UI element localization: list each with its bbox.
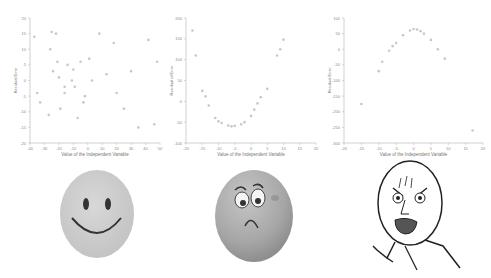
- y-tick-label: 15: [22, 31, 27, 36]
- data-point: [243, 121, 246, 124]
- x-tick-label: -20: [341, 146, 348, 151]
- data-point: [123, 107, 126, 110]
- data-point: [71, 79, 74, 82]
- data-point: [72, 68, 75, 71]
- data-point: [137, 126, 140, 129]
- y-tick-label: -300: [332, 141, 341, 146]
- scatter-plot-1: -20-15-10-505101520-40-30-20-10010203040…: [8, 0, 168, 160]
- data-point: [391, 45, 394, 48]
- data-point: [204, 95, 207, 98]
- data-point: [73, 85, 76, 88]
- data-point: [130, 70, 133, 73]
- x-axis-label: Value of the Independent Variable: [380, 152, 448, 157]
- y-axis-label: Residual of Error: [169, 65, 174, 96]
- data-point: [66, 64, 69, 67]
- x-tick-label: -15: [199, 146, 206, 151]
- data-point: [79, 60, 82, 63]
- data-point: [388, 50, 391, 53]
- y-tick-label: 100: [175, 57, 182, 62]
- y-tick-label: 150: [175, 36, 182, 41]
- x-tick-label: -30: [42, 146, 49, 151]
- y-tick-label: -150: [332, 94, 341, 99]
- data-point: [98, 32, 101, 35]
- data-point: [250, 115, 253, 118]
- data-point: [33, 35, 36, 38]
- data-point: [279, 48, 282, 51]
- data-point: [147, 39, 150, 42]
- data-point: [259, 96, 262, 99]
- y-tick-label: 20: [22, 16, 27, 21]
- data-point: [156, 60, 159, 63]
- y-axis-label: Residual Error: [13, 67, 18, 93]
- y-tick-label: 0: [338, 47, 341, 52]
- data-point: [63, 92, 66, 95]
- data-point: [39, 101, 42, 104]
- x-tick-label: 20: [114, 146, 119, 151]
- data-point: [230, 125, 233, 128]
- x-tick-label: 0: [412, 146, 415, 151]
- scatter-plot-3: -300-250-200-150-100-50050100-20-15-10-5…: [322, 0, 491, 160]
- data-point: [105, 73, 108, 76]
- x-tick-label: 10: [100, 146, 105, 151]
- x-tick-label: 5: [430, 146, 433, 151]
- x-tick-label: 15: [463, 146, 468, 151]
- x-tick-label: -40: [27, 146, 34, 151]
- x-tick-label: 40: [143, 146, 148, 151]
- data-point: [56, 60, 59, 63]
- data-point: [194, 54, 197, 57]
- data-point: [282, 38, 285, 41]
- x-tick-label: -20: [56, 146, 63, 151]
- data-point: [59, 107, 62, 110]
- happy-face-icon: [58, 168, 136, 264]
- plot-u-shaped-residuals: -100-50050100150200-20-15-10-505101520Va…: [164, 0, 324, 160]
- x-tick-label: 30: [129, 146, 134, 151]
- data-point: [63, 85, 66, 88]
- y-tick-label: -250: [332, 125, 341, 130]
- y-tick-label: -100: [332, 78, 341, 83]
- x-tick-label: 20: [314, 146, 319, 151]
- y-tick-label: -100: [174, 141, 183, 146]
- data-point: [50, 31, 53, 34]
- y-tick-label: 10: [22, 47, 27, 52]
- x-tick-label: -10: [216, 146, 223, 151]
- data-point: [47, 114, 50, 117]
- y-tick-label: 50: [178, 78, 183, 83]
- data-point: [201, 90, 204, 93]
- sad-face-icon: [213, 168, 295, 268]
- data-point: [360, 103, 363, 106]
- data-point: [416, 28, 419, 31]
- y-tick-label: 50: [336, 31, 341, 36]
- data-point: [227, 124, 230, 127]
- x-tick-label: 0: [250, 146, 253, 151]
- y-tick-label: -50: [334, 62, 341, 67]
- x-tick-label: 15: [298, 146, 303, 151]
- data-point: [240, 123, 243, 126]
- data-point: [253, 108, 256, 111]
- data-point: [443, 57, 446, 60]
- data-point: [214, 117, 217, 120]
- y-tick-label: -15: [20, 125, 27, 130]
- x-tick-label: -5: [394, 146, 398, 151]
- data-point: [91, 79, 94, 82]
- data-point: [217, 120, 220, 123]
- y-tick-label: 100: [333, 16, 340, 21]
- data-point: [115, 92, 118, 95]
- x-tick-label: 50: [158, 146, 163, 151]
- y-axis-label: Residual Error: [327, 67, 332, 93]
- data-point: [256, 102, 259, 105]
- data-point: [207, 104, 210, 107]
- data-point: [88, 57, 91, 60]
- y-u-no-face-icon: [365, 158, 465, 278]
- data-point: [377, 70, 380, 73]
- data-point: [419, 30, 422, 33]
- y-tick-label: 0: [180, 99, 183, 104]
- data-point: [471, 129, 474, 132]
- data-point: [437, 48, 440, 51]
- data-point: [220, 122, 223, 125]
- y-tick-label: -20: [20, 141, 27, 146]
- plot-random-residuals: -20-15-10-505101520-40-30-20-10010203040…: [8, 0, 168, 160]
- y-tick-label: -10: [20, 109, 27, 114]
- data-point: [412, 28, 415, 31]
- data-point: [276, 54, 279, 57]
- x-tick-label: 10: [446, 146, 451, 151]
